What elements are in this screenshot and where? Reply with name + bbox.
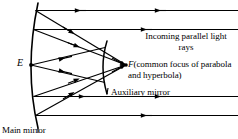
reflected-ray-top-outer — [36, 11, 127, 66]
aux-return-ray-upper — [31, 48, 105, 66]
point-e-marker — [29, 63, 33, 67]
aux-return-ray-lower — [31, 65, 105, 83]
reflected-rays-to-focus — [34, 11, 127, 116]
label-focus-point: F(common focus of parabola and hyperbola… — [128, 59, 236, 80]
reflected-ray-top-inner — [34, 30, 127, 66]
optics-diagram: Incoming parallel light rays F(common fo… — [0, 0, 238, 139]
label-main-mirror: Main mirror — [2, 125, 46, 136]
label-eyepiece-point: E — [17, 58, 23, 69]
auxiliary-mirror-leader — [107, 88, 108, 94]
label-focus-description: (common focus of parabola and hyperbola) — [128, 59, 231, 80]
auxiliary-mirror-curve — [103, 41, 107, 94]
arrowhead-refl-top-inner — [68, 43, 77, 47]
arrowhead-at-focus-upper — [112, 58, 124, 64]
label-incoming-rays: Incoming parallel light rays — [140, 31, 232, 52]
label-auxiliary-mirror: Auxiliary mirror — [111, 87, 170, 98]
